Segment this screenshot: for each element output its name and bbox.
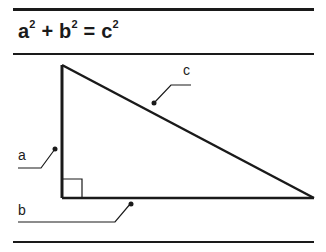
label-c-leader bbox=[152, 85, 192, 106]
triangle-diagram: a b c bbox=[0, 0, 326, 252]
bottom-rule bbox=[13, 241, 314, 243]
label-c: c bbox=[183, 62, 190, 78]
label-b: b bbox=[18, 202, 26, 218]
label-b-leader bbox=[18, 202, 134, 223]
right-angle-marker bbox=[63, 179, 82, 198]
label-a: a bbox=[18, 147, 26, 163]
